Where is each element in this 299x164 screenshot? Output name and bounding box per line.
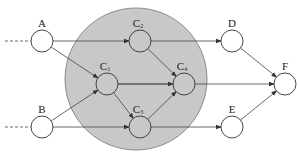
edge-D-F — [241, 48, 277, 77]
node-circle — [173, 73, 195, 95]
node-label: F — [282, 60, 288, 72]
node-circle — [221, 116, 243, 138]
node-E: E — [221, 103, 243, 138]
node-label: E — [229, 103, 236, 115]
node-circle — [221, 30, 243, 52]
node-F: F — [274, 60, 296, 95]
node-label: D — [228, 17, 236, 29]
network-diagram: ABC2C1C4C3DEF — [0, 0, 299, 164]
node-circle — [31, 30, 53, 52]
edge-E-F — [241, 91, 277, 120]
node-D: D — [221, 17, 243, 52]
node-circle — [96, 73, 118, 95]
node-circle — [31, 116, 53, 138]
node-B: B — [31, 103, 53, 138]
node-circle — [129, 116, 151, 138]
node-circle — [274, 73, 296, 95]
node-A: A — [31, 17, 53, 52]
node-label: B — [38, 103, 45, 115]
node-circle — [129, 30, 151, 52]
input-dashed-lines — [5, 41, 31, 127]
node-label: A — [38, 17, 46, 29]
